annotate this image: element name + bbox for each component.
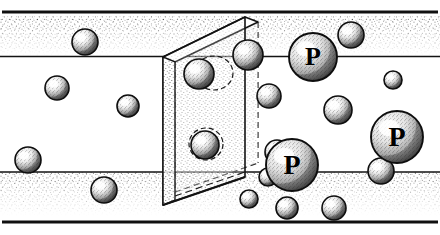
particle-label: P (283, 149, 300, 180)
figure-canvas: Membrane filtration schematic Cross-sect… (0, 0, 440, 235)
membrane-left-rib (163, 57, 175, 205)
particle-label: P (388, 121, 405, 152)
particle-label: P (305, 42, 321, 71)
membrane-filtration-figure: Membrane filtration schematic Cross-sect… (0, 0, 440, 235)
